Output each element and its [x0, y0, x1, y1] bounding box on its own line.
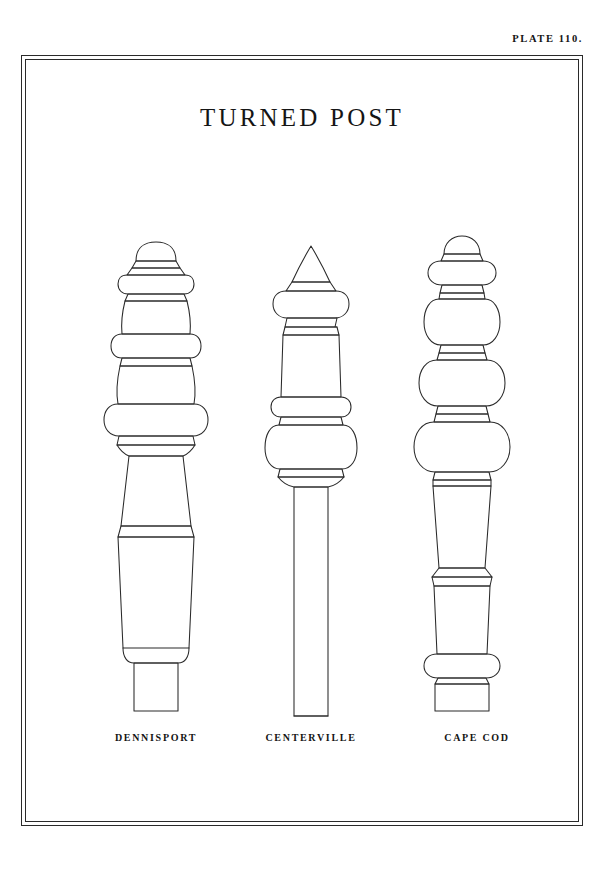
plate-frame: TURNED POST: [21, 55, 583, 826]
plate-number: PLATE 110.: [512, 33, 583, 44]
figure-caption-cape-cod: CAPE COD: [377, 732, 577, 743]
figure-group: [22, 56, 584, 827]
figure-centerville: [265, 246, 357, 716]
figure-dennisport: [104, 242, 208, 711]
figure-cape-cod: [414, 236, 510, 711]
turned-post-drawings: [22, 56, 584, 827]
